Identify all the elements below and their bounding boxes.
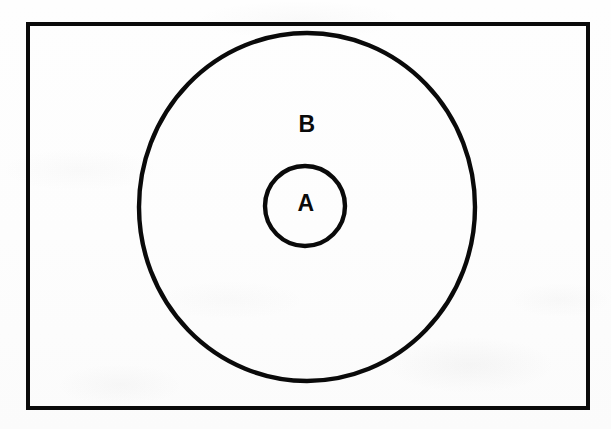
set-a-label: A [297, 192, 314, 215]
universal-set-rectangle [28, 24, 588, 408]
diagram-canvas: B A [0, 0, 611, 429]
set-b-label: B [298, 113, 315, 136]
